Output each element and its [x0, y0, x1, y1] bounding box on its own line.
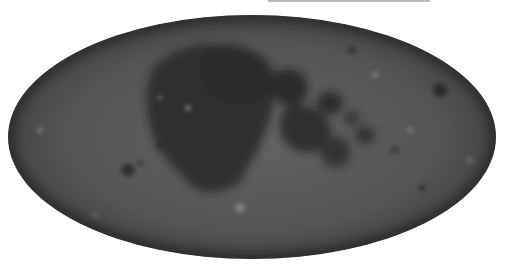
moon-surface — [0, 0, 505, 264]
moon-map[interactable] — [0, 0, 505, 264]
surface-texture — [0, 0, 505, 264]
